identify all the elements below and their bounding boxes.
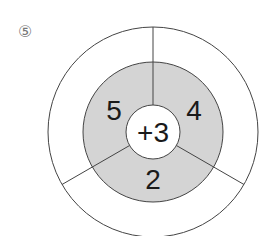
center-label: +3	[137, 117, 169, 148]
segment-value-upper-right: 4	[186, 95, 202, 126]
segment-value-bottom: 2	[145, 164, 161, 195]
segment-value-upper-left: 5	[106, 95, 122, 126]
addition-wheel-diagram: +3 5 4 2	[0, 0, 272, 236]
